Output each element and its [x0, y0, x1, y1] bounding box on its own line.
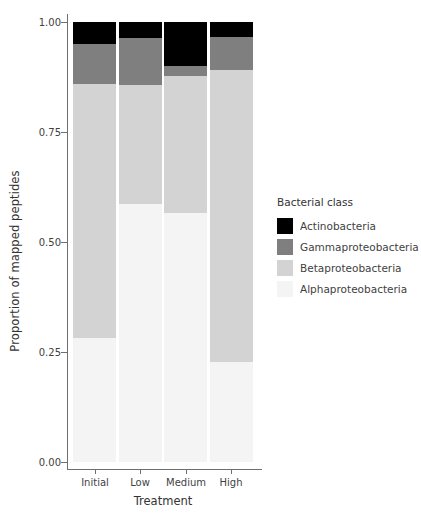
- bar-segment-alphaproteobacteria: [73, 338, 116, 462]
- bar-segment-betaproteobacteria: [210, 70, 253, 362]
- bar-segment-actinobacteria: [164, 22, 207, 66]
- legend-item-gammaproteobacteria: Gammaproteobacteria: [277, 237, 417, 257]
- bar-medium: [164, 22, 207, 462]
- bar-segment-gammaproteobacteria: [73, 44, 116, 84]
- x-tick-mark: [186, 469, 187, 474]
- bar-segment-alphaproteobacteria: [164, 213, 207, 462]
- y-axis-title: Proportion of mapped peptides: [0, 0, 30, 522]
- x-axis-title: Treatment: [67, 494, 259, 508]
- bar-low: [119, 22, 162, 462]
- bar-segment-actinobacteria: [73, 22, 116, 44]
- legend-label: Betaproteobacteria: [300, 262, 402, 274]
- bar-segment-actinobacteria: [119, 22, 162, 38]
- legend-swatch-betaproteobacteria: [277, 260, 293, 276]
- legend-label: Alphaproteobacteria: [300, 283, 407, 295]
- bar-segment-gammaproteobacteria: [210, 37, 253, 70]
- y-tick-label: 0.25: [27, 347, 61, 358]
- x-tick-label-high: High: [201, 477, 261, 488]
- legend-item-actinobacteria: Actinobacteria: [277, 216, 417, 236]
- legend-item-betaproteobacteria: Betaproteobacteria: [277, 258, 417, 278]
- bar-segment-betaproteobacteria: [164, 76, 207, 213]
- y-tick-label: 1.00: [27, 17, 61, 28]
- legend: Bacterial class ActinobacteriaGammaprote…: [277, 196, 417, 300]
- bar-segment-actinobacteria: [210, 22, 253, 37]
- legend-label: Gammaproteobacteria: [300, 241, 419, 253]
- bar-segment-alphaproteobacteria: [210, 362, 253, 462]
- y-tick-mark: [61, 132, 67, 133]
- bar-segment-betaproteobacteria: [119, 85, 162, 204]
- y-tick-mark: [61, 242, 67, 243]
- x-tick-mark: [140, 469, 141, 474]
- x-tick-mark: [95, 469, 96, 474]
- legend-item-alphaproteobacteria: Alphaproteobacteria: [277, 279, 417, 299]
- x-tick-mark: [231, 469, 232, 474]
- legend-swatch-alphaproteobacteria: [277, 281, 293, 297]
- y-tick-mark: [61, 352, 67, 353]
- y-tick-mark: [61, 462, 67, 463]
- plot-area: [68, 14, 262, 469]
- y-tick-label: 0.00: [27, 457, 61, 468]
- x-axis-line: [67, 469, 262, 470]
- legend-items: ActinobacteriaGammaproteobacteriaBetapro…: [277, 216, 417, 299]
- y-tick-label: 0.75: [27, 127, 61, 138]
- legend-title: Bacterial class: [277, 196, 417, 208]
- legend-swatch-gammaproteobacteria: [277, 239, 293, 255]
- bar-segment-alphaproteobacteria: [119, 204, 162, 462]
- legend-label: Actinobacteria: [300, 220, 376, 232]
- y-tick-label: 0.50: [27, 237, 61, 248]
- bar-high: [210, 22, 253, 462]
- bar-segment-betaproteobacteria: [73, 84, 116, 338]
- bar-segment-gammaproteobacteria: [119, 38, 162, 85]
- y-tick-mark: [61, 22, 67, 23]
- legend-swatch-actinobacteria: [277, 218, 293, 234]
- bar-initial: [73, 22, 116, 462]
- stacked-bar-chart-figure: Proportion of mapped peptides 0.000.250.…: [0, 0, 421, 522]
- bar-segment-gammaproteobacteria: [164, 66, 207, 76]
